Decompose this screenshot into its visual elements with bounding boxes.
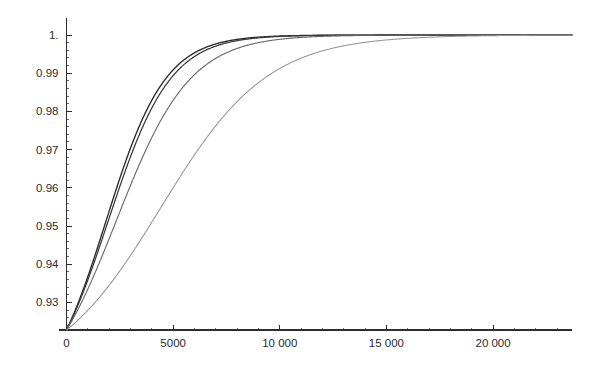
x-axis-tick-labels: 0500010 00015 00020 000 [63,337,510,349]
data-curves [67,35,572,330]
y-axis-tick-labels: 1.0.990.980.970.960.950.940.93 [36,29,59,308]
svg-text:0.93: 0.93 [36,296,58,308]
svg-text:0.96: 0.96 [36,182,58,194]
curve-3 [67,35,572,330]
curve-4 [67,35,572,330]
curve-1 [67,35,572,330]
svg-text:0.99: 0.99 [36,67,58,79]
y-axis-major-ticks [67,35,72,302]
svg-text:5000: 5000 [160,337,186,349]
svg-text:0.98: 0.98 [36,105,58,117]
svg-text:10 000: 10 000 [262,337,297,349]
svg-text:15 000: 15 000 [369,337,404,349]
svg-text:0: 0 [63,337,69,349]
svg-text:0.95: 0.95 [36,220,58,232]
svg-text:1.: 1. [49,29,59,41]
svg-text:20 000: 20 000 [475,337,510,349]
svg-text:0.97: 0.97 [36,144,58,156]
plot-canvas: 0500010 00015 00020 000 1.0.990.980.970.… [0,0,599,374]
curve-2 [67,35,572,330]
chart-figure: 0500010 00015 00020 000 1.0.990.980.970.… [0,0,599,374]
svg-text:0.94: 0.94 [36,258,59,270]
